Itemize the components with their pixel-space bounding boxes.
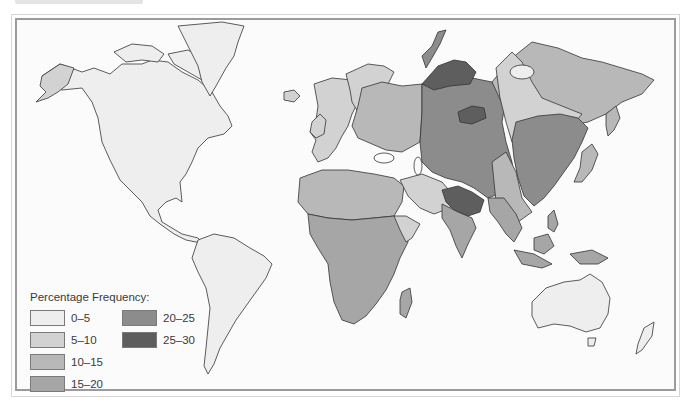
legend-item-25-30: 25–30 (122, 331, 195, 349)
region-north-america (42, 60, 232, 244)
region-new-zealand (636, 322, 654, 354)
legend-swatch (122, 310, 157, 326)
black-sea (374, 153, 394, 163)
legend-label: 5–10 (71, 334, 97, 346)
legend-item-15-20: 15–20 (30, 375, 103, 393)
region-tasmania (588, 338, 596, 346)
legend-swatch (30, 310, 65, 326)
legend-item-20-25: 20–25 (122, 309, 195, 327)
region-novaya-zemlya (422, 30, 446, 68)
region-north-africa (298, 170, 404, 220)
legend-swatch (30, 376, 65, 392)
region-philippines (548, 210, 558, 232)
region-eastern-europe (352, 82, 422, 152)
region-iceland (284, 90, 300, 102)
top-edge-bar (15, 0, 143, 4)
region-alaska (36, 64, 74, 102)
region-new-guinea (570, 250, 608, 264)
legend-item-10-15: 10–15 (30, 353, 103, 371)
region-north-china (512, 114, 588, 206)
legend: Percentage Frequency: 0–5 5–10 10–15 15–… (30, 291, 200, 391)
region-madagascar (400, 288, 412, 318)
region-british-isles (310, 114, 326, 138)
legend-label: 15–20 (71, 378, 103, 390)
legend-item-0-5: 0–5 (30, 309, 90, 327)
legend-label: 20–25 (163, 312, 195, 324)
caspian-sea (414, 157, 422, 175)
region-sub-saharan-africa (308, 214, 408, 324)
region-south-america (192, 234, 272, 374)
region-borneo (534, 234, 554, 254)
legend-swatch (30, 354, 65, 370)
legend-label: 0–5 (71, 312, 90, 324)
legend-swatch (30, 332, 65, 348)
legend-item-5-10: 5–10 (30, 331, 97, 349)
region-australia (532, 274, 610, 332)
region-indonesia (514, 250, 552, 268)
legend-title: Percentage Frequency: (30, 291, 150, 303)
legend-label: 25–30 (163, 334, 195, 346)
legend-label: 10–15 (71, 356, 103, 368)
legend-swatch (122, 332, 157, 348)
region-arctic-islands (114, 44, 164, 62)
region-siberia-oval (510, 65, 534, 79)
